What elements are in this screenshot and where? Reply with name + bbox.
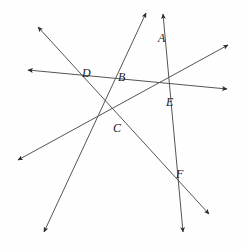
point-label-f: F [176, 168, 183, 180]
geometry-figure: ABDECF [0, 0, 242, 251]
horizontal-line-DBE [28, 70, 227, 89]
line-CBA [44, 13, 146, 232]
point-label-a: A [158, 32, 165, 44]
point-label-c: C [113, 122, 121, 134]
line-AEF [163, 14, 183, 232]
point-label-b: B [118, 71, 125, 83]
lines-group [18, 13, 228, 232]
point-label-d: D [82, 67, 91, 79]
point-label-e: E [166, 96, 173, 108]
line-DCF [38, 27, 209, 214]
